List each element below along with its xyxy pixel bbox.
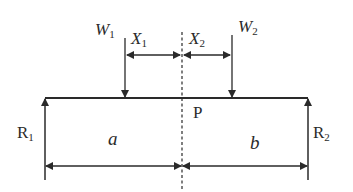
label-w2-main: W (238, 17, 252, 36)
label-w2: W2 (238, 18, 258, 37)
label-w1-sub: 1 (109, 28, 115, 40)
label-x1: X1 (131, 30, 147, 49)
label-r2-main: R (313, 123, 324, 142)
label-p: P (193, 104, 202, 121)
label-r2: R2 (313, 124, 330, 143)
label-w2-sub: 2 (252, 25, 258, 37)
label-x2-sub: 2 (199, 37, 205, 49)
label-x1-sub: 1 (141, 37, 147, 49)
label-r1: R1 (17, 124, 34, 143)
label-x2-main: X (189, 29, 199, 48)
label-r2-sub: 2 (324, 131, 330, 143)
label-x2: X2 (189, 30, 205, 49)
label-r1-sub: 1 (28, 131, 34, 143)
label-x1-main: X (131, 29, 141, 48)
label-b: b (250, 133, 260, 152)
label-w1-main: W (95, 20, 109, 39)
beam-diagram (0, 0, 353, 192)
label-w1: W1 (95, 21, 115, 40)
label-a: a (108, 129, 118, 148)
label-r1-main: R (17, 123, 28, 142)
